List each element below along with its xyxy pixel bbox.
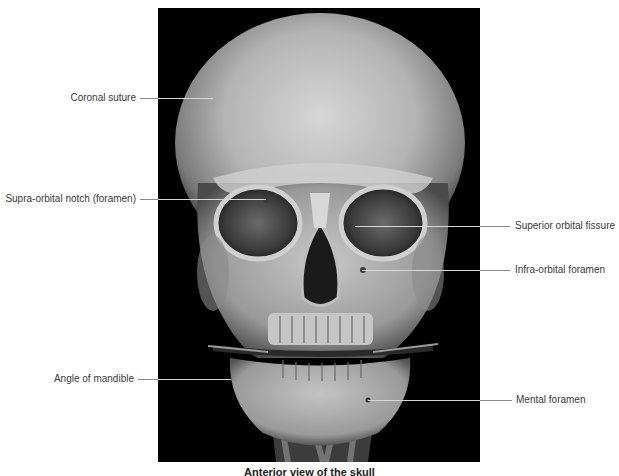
leader-supra-orbital-notch [140,199,158,200]
leader-mental-foramen-inner [368,400,480,401]
leader-coronal-suture-inner [158,98,213,99]
leader-angle-of-mandible [138,379,158,380]
leader-coronal-suture [140,98,158,99]
leader-angle-of-mandible-inner [158,379,231,380]
figure-caption: Anterior view of the skull [0,466,619,476]
label-mental-foramen: Mental foramen [516,394,585,406]
skull-ct-image [158,8,480,462]
label-coronal-suture: Coronal suture [70,92,136,104]
leader-infra-orbital-foramen-inner [362,270,480,271]
label-supra-orbital-notch: Supra-orbital notch (foramen) [5,193,136,205]
leader-mental-foramen [480,400,512,401]
leader-superior-orbital-fissure [480,226,510,227]
label-superior-orbital-fissure: Superior orbital fissure [515,220,615,232]
label-angle-of-mandible: Angle of mandible [54,373,134,385]
label-infra-orbital-foramen: Infra-orbital foramen [515,264,605,276]
leader-superior-orbital-fissure-inner [355,226,480,227]
leader-supra-orbital-notch-inner [158,199,266,200]
skull-illustration [158,8,480,462]
leader-infra-orbital-foramen [480,270,510,271]
